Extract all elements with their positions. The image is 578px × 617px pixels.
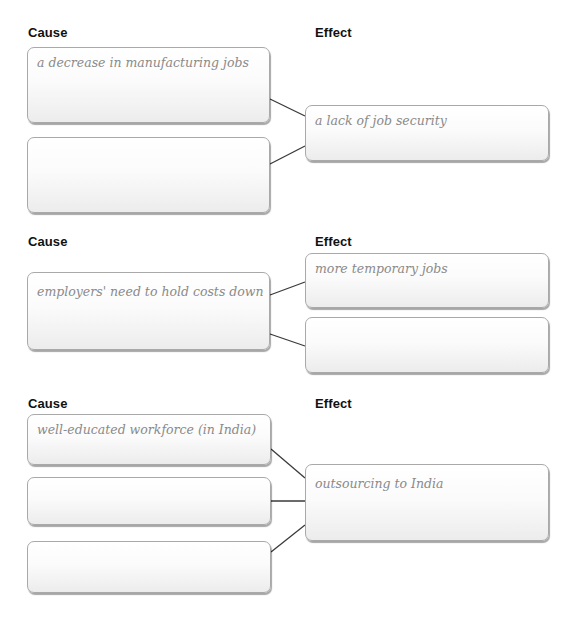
cause-label: Cause xyxy=(28,234,68,249)
effect-text: outsourcing to India xyxy=(315,476,444,491)
cause-label: Cause xyxy=(28,396,68,411)
cause-box[interactable]: well-educated workforce (in India) xyxy=(27,414,271,465)
effect-box[interactable] xyxy=(305,317,549,373)
cause-label: Cause xyxy=(28,25,68,40)
effect-label: Effect xyxy=(315,25,352,40)
effect-label: Effect xyxy=(315,396,352,411)
cause-text: a decrease in manufacturing jobs xyxy=(37,55,249,70)
cause-box[interactable] xyxy=(27,477,271,525)
cause-box[interactable] xyxy=(27,541,271,593)
cause-text: well-educated workforce (in India) xyxy=(37,422,256,437)
effect-text: a lack of job security xyxy=(315,113,447,128)
effect-box[interactable]: a lack of job security xyxy=(305,105,549,161)
effect-box[interactable]: outsourcing to India xyxy=(305,464,549,541)
cause-box[interactable]: employers' need to hold costs down xyxy=(27,272,270,350)
cause-text: employers' need to hold costs down xyxy=(37,284,264,299)
effect-text: more temporary jobs xyxy=(315,261,448,276)
cause-box[interactable]: a decrease in manufacturing jobs xyxy=(27,47,270,123)
effect-box[interactable]: more temporary jobs xyxy=(305,253,549,308)
cause-box[interactable] xyxy=(27,137,270,213)
effect-label: Effect xyxy=(315,234,352,249)
